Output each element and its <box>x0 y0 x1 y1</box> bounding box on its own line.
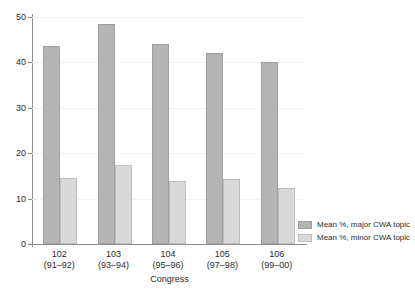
bar-minor <box>169 181 186 244</box>
bar-major <box>261 62 278 245</box>
legend-label-major: Mean %, major CWA topic <box>317 221 410 229</box>
bar-group <box>98 17 132 244</box>
tick-mark <box>28 62 32 63</box>
y-axis-tick-label: 50 <box>16 13 26 22</box>
y-axis-tick-label: 0 <box>21 240 26 249</box>
category-number: 106 <box>269 249 284 259</box>
bar-group <box>261 17 295 244</box>
y-axis-tick-label: 20 <box>16 149 26 158</box>
tick-mark <box>28 108 32 109</box>
x-axis-category-label: 103(93–94) <box>86 249 140 271</box>
category-number: 102 <box>52 249 67 259</box>
legend-item-minor: Mean %, minor CWA topic <box>298 232 410 244</box>
bar-major <box>206 53 223 244</box>
y-axis-tick-label: 10 <box>16 194 26 203</box>
legend-swatch-minor <box>298 234 312 242</box>
category-number: 105 <box>215 249 230 259</box>
category-number: 104 <box>160 249 175 259</box>
legend-item-major: Mean %, major CWA topic <box>298 219 410 231</box>
category-years: (93–94) <box>86 260 140 271</box>
category-years: (97–98) <box>195 260 249 271</box>
bar-major <box>152 44 169 244</box>
bar-minor <box>278 188 295 244</box>
tick-mark <box>28 244 32 245</box>
tick-mark <box>28 199 32 200</box>
category-number: 103 <box>106 249 121 259</box>
x-axis-category-label: 104(95–96) <box>141 249 195 271</box>
bar-minor <box>115 165 132 244</box>
bar-group <box>206 17 240 244</box>
chart-legend: Mean %, major CWA topic Mean %, minor CW… <box>298 219 410 245</box>
category-years: (99–00) <box>250 260 304 271</box>
chart-screenshot: 01020304050 102(91–92)103(93–94)104(95–9… <box>0 0 415 297</box>
tick-mark <box>28 17 32 18</box>
legend-swatch-major <box>298 221 312 229</box>
x-axis-title: Congress <box>32 274 307 284</box>
bar-group <box>43 17 77 244</box>
x-axis-category-label: 105(97–98) <box>195 249 249 271</box>
y-axis-tick-label: 40 <box>16 58 26 67</box>
bar-major <box>98 24 115 244</box>
legend-label-minor: Mean %, minor CWA topic <box>317 234 410 242</box>
bar-major <box>43 46 60 244</box>
category-years: (91–92) <box>32 260 86 271</box>
bar-minor <box>60 178 77 244</box>
x-axis-category-label: 106(99–00) <box>250 249 304 271</box>
bar-minor <box>223 179 240 244</box>
plot-area: 01020304050 <box>32 17 304 244</box>
y-axis-tick-label: 30 <box>16 103 26 112</box>
category-years: (95–96) <box>141 260 195 271</box>
x-axis-line <box>32 244 307 245</box>
x-axis-category-label: 102(91–92) <box>32 249 86 271</box>
bar-group <box>152 17 186 244</box>
tick-mark <box>28 153 32 154</box>
